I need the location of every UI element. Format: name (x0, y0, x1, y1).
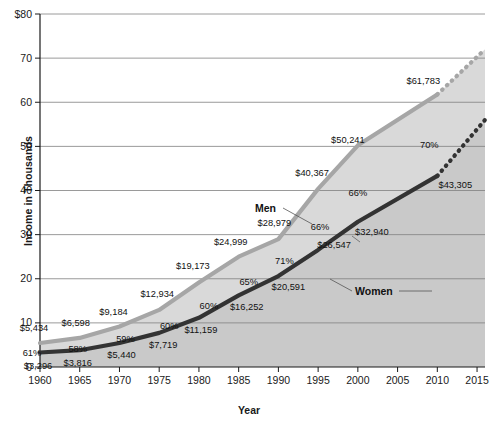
ratio-label-1990: 71% (275, 256, 294, 266)
x-tick-label-1970: 1970 (108, 374, 132, 386)
women-value-label-1990: $20,591 (272, 282, 306, 292)
women-value-label-1965: $3,816 (63, 358, 91, 368)
women-value-label-2000: $32,940 (355, 227, 389, 237)
ratio-label-1995: 66% (311, 222, 330, 232)
ratio-label-1960: 61% (23, 348, 42, 358)
men-value-label-1960: $5,434 (20, 323, 48, 333)
men-value-label-2000: $50,241 (331, 135, 365, 145)
x-tick-label-2005: 2005 (386, 374, 410, 386)
women-value-label-2010: $43,305 (438, 180, 472, 190)
men-value-label-1980: $19,173 (176, 261, 210, 271)
men-value-label-1965: $6,598 (61, 318, 89, 328)
men-value-label-1990: $28,979 (258, 218, 292, 228)
y-tick-label-70: 70 (20, 52, 32, 64)
x-tick-label-1995: 1995 (306, 374, 330, 386)
men-series-label: Men (255, 202, 276, 214)
men-value-label-1970: $9,184 (99, 307, 127, 317)
y-tick-label-80: $80 (14, 8, 32, 20)
y-tick-label-60: 60 (20, 96, 32, 108)
women-value-label-1985: $16,252 (230, 302, 264, 312)
income-by-gender-chart: 010203040506070$80 196019651970197519801… (0, 0, 498, 427)
x-tick-label-2000: 2000 (346, 374, 370, 386)
men-value-label-2010: $61,783 (406, 76, 440, 86)
x-tick-label-2010: 2010 (426, 374, 450, 386)
women-value-label-1980: $11,159 (184, 325, 217, 335)
ratio-label-1980: 60% (200, 301, 219, 311)
y-axis-title: Income in Thousands (22, 111, 34, 271)
x-tick-label-2015: 2015 (465, 374, 489, 386)
women-series-label: Women (355, 285, 393, 297)
ratio-label-1985: 65% (239, 277, 258, 287)
x-axis-title: Year (0, 404, 498, 416)
x-tick-label-1960: 1960 (28, 374, 52, 386)
y-tick-label-20: 20 (20, 272, 32, 284)
chart-canvas: 010203040506070$80 196019651970197519801… (0, 0, 498, 427)
ratio-label-1970: 59% (116, 334, 135, 344)
x-tick-label-1965: 1965 (68, 374, 92, 386)
ratio-label-1975: 60% (160, 321, 179, 331)
men-value-label-1985: $24,999 (214, 237, 248, 247)
men-value-label-1975: $12,934 (140, 289, 174, 299)
women-value-label-1970: $5,440 (107, 350, 135, 360)
ratio-label-1965: 58% (68, 344, 87, 354)
x-tick-label-1980: 1980 (187, 374, 211, 386)
ratio-label-2000: 66% (349, 188, 368, 198)
x-axis-ticks: 1960196519701975198019851990199520002005… (28, 367, 489, 386)
x-tick-label-1990: 1990 (267, 374, 291, 386)
women-value-label-1995: $26,547 (317, 240, 351, 250)
ratio-label-2010: 70% (420, 140, 439, 150)
women-value-label-1975: $7,719 (149, 340, 177, 350)
women-value-label-1960: $3,296 (24, 361, 52, 371)
x-tick-label-1975: 1975 (148, 374, 172, 386)
men-value-label-1995: $40,367 (295, 168, 329, 178)
x-tick-label-1985: 1985 (227, 374, 251, 386)
